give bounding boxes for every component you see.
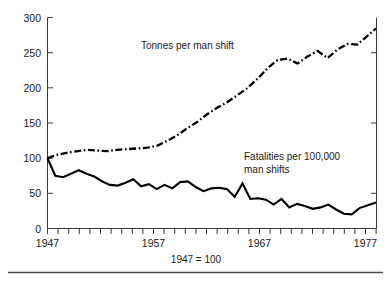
series-fatalities-per-100000-man-shifts (48, 158, 377, 214)
y-tick-label-300: 300 (23, 12, 41, 24)
y-tick-label-50: 50 (29, 187, 41, 199)
line-chart: 300 250 200 150 100 50 0 1947 1957 1967 … (0, 0, 391, 282)
chart-caption: 1947 = 100 (171, 254, 222, 265)
y-tick-label-200: 200 (23, 82, 41, 94)
x-tick-label-1967: 1967 (248, 237, 272, 249)
y-tick-label-150: 150 (23, 117, 41, 129)
x-axis-ticks (48, 229, 377, 235)
annotation-fatalities-label-line2: man shifts (244, 164, 290, 175)
annotation-fatalities-label-line1: Fatalities per 100,000 (244, 151, 341, 162)
chart-figure: 300 250 200 150 100 50 0 1947 1957 1967 … (0, 0, 391, 282)
y-tick-label-100: 100 (23, 152, 41, 164)
x-tick-label-1977: 1977 (354, 237, 378, 249)
x-tick-label-1957: 1957 (142, 237, 166, 249)
x-tick-label-1947: 1947 (36, 237, 60, 249)
y-tick-label-0: 0 (35, 223, 41, 235)
annotation-tonnes-label: Tonnes per man shift (141, 40, 234, 51)
y-axis-ticks (48, 18, 54, 229)
y-axis-right-ticks (371, 53, 377, 194)
y-tick-label-250: 250 (23, 47, 41, 59)
